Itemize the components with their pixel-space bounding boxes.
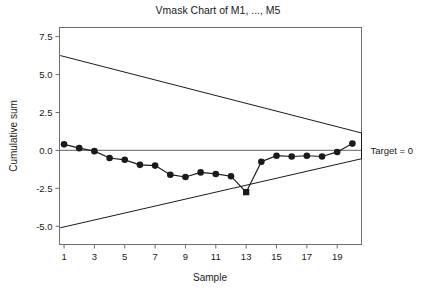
target-label: Target = 0 bbox=[371, 145, 414, 156]
x-tick-label: 5 bbox=[122, 251, 127, 262]
data-point bbox=[349, 140, 356, 147]
y-axis-ticks: 7.55.02.50.0-2.5-5.0 bbox=[36, 31, 59, 232]
data-point bbox=[258, 158, 265, 165]
data-point bbox=[228, 173, 235, 180]
x-axis-label: Sample bbox=[193, 272, 227, 283]
vmask-upper-arm bbox=[60, 56, 361, 133]
y-axis-label: Cumulative sum bbox=[8, 100, 19, 172]
vmask-lower-arm bbox=[60, 159, 361, 228]
cusum-data-points bbox=[61, 140, 356, 195]
y-tick-label: 7.5 bbox=[39, 31, 52, 42]
x-tick-label: 13 bbox=[241, 251, 252, 262]
vmask-arms bbox=[60, 56, 361, 228]
vmask-chart: Vmask Chart of M1, ..., M5 Cumulative su… bbox=[0, 0, 437, 293]
y-tick-label: -2.5 bbox=[36, 183, 52, 194]
data-point bbox=[106, 155, 113, 162]
chart-annotations: Target = 0 bbox=[371, 145, 414, 156]
x-tick-label: 7 bbox=[152, 251, 157, 262]
y-tick-label: 0.0 bbox=[39, 145, 52, 156]
data-point bbox=[213, 171, 220, 178]
data-point bbox=[288, 153, 295, 160]
y-tick-label: -5.0 bbox=[36, 221, 52, 232]
data-point bbox=[319, 153, 326, 160]
chart-title: Vmask Chart of M1, ..., M5 bbox=[156, 4, 281, 16]
x-tick-label: 9 bbox=[183, 251, 188, 262]
data-point-out-of-control bbox=[243, 189, 249, 195]
y-tick-label: 2.5 bbox=[39, 107, 52, 118]
data-point bbox=[197, 169, 204, 176]
x-tick-label: 3 bbox=[92, 251, 97, 262]
x-axis-ticks: 135791113151719 bbox=[61, 245, 342, 262]
x-tick-label: 15 bbox=[271, 251, 282, 262]
y-tick-label: 5.0 bbox=[39, 69, 52, 80]
data-point bbox=[121, 157, 128, 164]
data-point bbox=[76, 145, 83, 152]
data-point bbox=[91, 148, 98, 155]
chart-canvas: Vmask Chart of M1, ..., M5 Cumulative su… bbox=[0, 0, 437, 293]
x-tick-label: 1 bbox=[61, 251, 66, 262]
x-tick-label: 19 bbox=[332, 251, 343, 262]
data-point bbox=[182, 174, 189, 181]
plot-frame bbox=[60, 28, 362, 245]
data-point bbox=[304, 152, 311, 159]
data-point bbox=[61, 141, 68, 148]
x-tick-label: 11 bbox=[211, 251, 221, 262]
data-point bbox=[137, 162, 144, 169]
data-point bbox=[152, 162, 159, 169]
data-point bbox=[334, 149, 341, 156]
x-tick-label: 17 bbox=[302, 251, 313, 262]
data-point bbox=[273, 152, 280, 159]
data-point bbox=[167, 171, 174, 178]
